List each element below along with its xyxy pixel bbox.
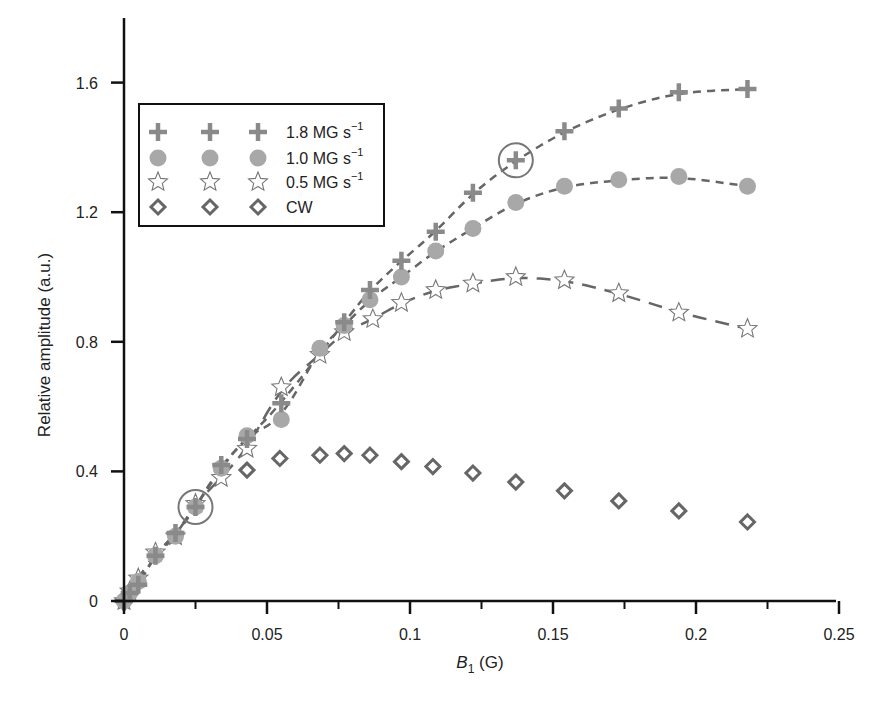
x-tick-label: 0.2 — [685, 626, 707, 643]
x-tick-label: 0.1 — [399, 626, 421, 643]
legend-label: CW — [286, 199, 314, 216]
legend: 1.8 MG s−11.0 MG s−10.5 MG s−1CW — [139, 104, 384, 226]
y-tick-label: 0.4 — [76, 463, 98, 480]
x-tick-label: 0 — [120, 626, 129, 643]
x-tick-label: 0.25 — [823, 626, 854, 643]
y-axis-ticks: 00.40.81.21.6 — [76, 75, 124, 610]
y-tick-label: 1.2 — [76, 204, 98, 221]
chart: 00.050.10.150.20.25 00.40.81.21.6 B1 (G)… — [0, 0, 878, 713]
series-diamond — [117, 447, 754, 608]
x-tick-label: 0.05 — [251, 626, 282, 643]
x-tick-label: 0.15 — [537, 626, 568, 643]
x-axis-title: B1 (G) — [456, 653, 503, 676]
y-axis-title: Relative amplitude (a.u.) — [35, 253, 54, 437]
series-star — [115, 267, 758, 609]
fit-curve — [124, 278, 747, 601]
x-axis-ticks: 00.050.10.150.20.25 — [120, 601, 855, 643]
fit-curve — [124, 178, 747, 601]
y-tick-label: 1.6 — [76, 75, 98, 92]
y-tick-label: 0 — [89, 593, 98, 610]
y-tick-label: 0.8 — [76, 334, 98, 351]
